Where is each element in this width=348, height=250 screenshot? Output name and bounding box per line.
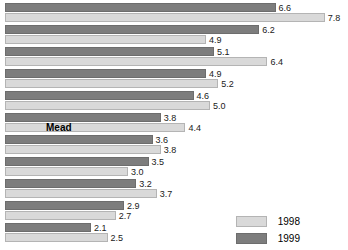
bar-value-label-1999: 4.6 — [197, 91, 210, 100]
bar-1999[interactable] — [5, 179, 136, 188]
legend-item-1998[interactable]: 1998 — [236, 216, 300, 227]
bar-1998[interactable] — [5, 145, 161, 154]
legend-item-1999[interactable]: 1999 — [236, 233, 300, 244]
bar-1998[interactable] — [5, 57, 267, 66]
bar-line-1999: 5.1 — [0, 47, 348, 56]
category-label-mead: Mead — [46, 123, 72, 133]
bar-group: 3.63.8 — [0, 135, 348, 157]
bar-1998[interactable] — [5, 189, 157, 198]
bar-value-label-1998: 5.2 — [221, 79, 234, 88]
bar-line-1998: 4.4Mead — [0, 123, 348, 132]
plot-area: 6.67.86.24.95.16.44.95.24.65.03.84.4Mead… — [0, 3, 348, 247]
bar-value-label-1999: 3.2 — [139, 179, 152, 188]
bar-1998[interactable] — [5, 167, 128, 176]
bar-line-1998: 3.8 — [0, 145, 348, 154]
bar-line-1999: 4.9 — [0, 69, 348, 78]
bar-group: 4.65.0 — [0, 91, 348, 113]
bar-group: 6.24.9 — [0, 25, 348, 47]
bar-value-label-1999: 4.9 — [209, 69, 222, 78]
bar-line-1999: 3.5 — [0, 157, 348, 166]
bar-line-1998: 5.0 — [0, 101, 348, 110]
bar-1999[interactable] — [5, 47, 214, 56]
bar-line-1998: 6.4 — [0, 57, 348, 66]
bar-value-label-1998: 4.9 — [209, 35, 222, 44]
bar-1998[interactable] — [5, 123, 185, 132]
bar-1999[interactable] — [5, 157, 149, 166]
bar-group: 3.53.0 — [0, 157, 348, 179]
bar-1999[interactable] — [5, 113, 161, 122]
legend-swatch-1999 — [236, 233, 267, 244]
bar-value-label-1999: 3.6 — [156, 135, 169, 144]
bar-value-label-1998: 2.7 — [119, 211, 132, 220]
bar-line-1998: 3.7 — [0, 189, 348, 198]
bar-1998[interactable] — [5, 35, 206, 44]
bar-value-label-1999: 3.5 — [152, 157, 165, 166]
legend-label-1999: 1999 — [278, 234, 300, 244]
bar-1998[interactable] — [5, 211, 116, 220]
bar-1998[interactable] — [5, 101, 210, 110]
bar-1999[interactable] — [5, 91, 194, 100]
bar-value-label-1999: 3.8 — [164, 113, 177, 122]
bar-1999[interactable] — [5, 69, 206, 78]
bar-line-1999: 3.2 — [0, 179, 348, 188]
bar-value-label-1998: 7.8 — [328, 13, 341, 22]
bar-group: 5.16.4 — [0, 47, 348, 69]
bar-value-label-1999: 6.2 — [262, 25, 275, 34]
bar-group: 3.84.4Mead — [0, 113, 348, 135]
bar-line-1999: 3.6 — [0, 135, 348, 144]
bar-1999[interactable] — [5, 135, 153, 144]
bar-value-label-1999: 2.9 — [127, 201, 140, 210]
bar-group: 3.23.7 — [0, 179, 348, 201]
bar-group: 6.67.8 — [0, 3, 348, 25]
bar-value-label-1998: 3.8 — [164, 145, 177, 154]
bar-value-label-1998: 3.7 — [160, 189, 173, 198]
bar-1998[interactable] — [5, 233, 108, 242]
bar-1999[interactable] — [5, 3, 276, 12]
bar-value-label-1999: 6.6 — [279, 3, 292, 12]
bar-1999[interactable] — [5, 25, 259, 34]
bar-line-1999: 2.9 — [0, 201, 348, 210]
bar-line-1998: 3.0 — [0, 167, 348, 176]
bar-chart: 6.67.86.24.95.16.44.95.24.65.03.84.4Mead… — [0, 0, 348, 250]
bar-value-label-1998: 3.0 — [131, 167, 144, 176]
legend-swatch-1998 — [236, 216, 267, 227]
bar-line-1998: 4.9 — [0, 35, 348, 44]
bar-value-label-1998: 4.4 — [188, 123, 201, 132]
bar-group: 4.95.2 — [0, 69, 348, 91]
bar-1999[interactable] — [5, 223, 91, 232]
bar-1998[interactable] — [5, 79, 218, 88]
bar-line-1999: 6.6 — [0, 3, 348, 12]
bar-line-1998: 7.8 — [0, 13, 348, 22]
bar-1999[interactable] — [5, 201, 124, 210]
bar-line-1999: 4.6 — [0, 91, 348, 100]
bar-value-label-1999: 2.1 — [94, 223, 107, 232]
bar-line-1998: 5.2 — [0, 79, 348, 88]
legend-label-1998: 1998 — [278, 217, 300, 227]
bar-value-label-1998: 6.4 — [270, 57, 283, 66]
bar-value-label-1998: 5.0 — [213, 101, 226, 110]
bar-1998[interactable] — [5, 13, 325, 22]
bar-line-1999: 6.2 — [0, 25, 348, 34]
chart-legend: 1998 1999 — [236, 216, 300, 244]
chart-title — [0, 0, 348, 1]
bar-value-label-1998: 2.5 — [111, 233, 124, 242]
bar-value-label-1999: 5.1 — [217, 47, 230, 56]
